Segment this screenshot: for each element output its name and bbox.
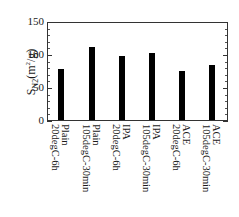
bar (119, 56, 125, 120)
plot-area (47, 22, 228, 121)
x-tick-label: Plain 20degC-6h (50, 124, 70, 171)
x-tick-label: ACE 20degC-6h (171, 124, 191, 171)
bar (149, 53, 155, 120)
x-tick-label: IPA 20degC-6h (111, 124, 131, 171)
x-tick-label: ACE 105degC-30min (201, 124, 221, 192)
y-major-tick (47, 121, 52, 122)
y-major-tick (223, 121, 228, 122)
x-tick-label: IPA 105degC-30min (141, 124, 161, 192)
y-tick-label: 50 (18, 82, 44, 93)
bar (89, 47, 95, 120)
y-tick-label: 0 (18, 115, 44, 126)
bar-chart: SN2(m2/g) 050100150 Plain 20degC-6hPlain… (0, 0, 239, 217)
bar (179, 71, 185, 120)
bar (209, 65, 215, 120)
x-tick-label: Plain 105degC-30min (81, 124, 101, 192)
y-tick-label: 150 (18, 16, 44, 27)
bar (58, 69, 64, 120)
y-tick-label: 100 (18, 49, 44, 60)
